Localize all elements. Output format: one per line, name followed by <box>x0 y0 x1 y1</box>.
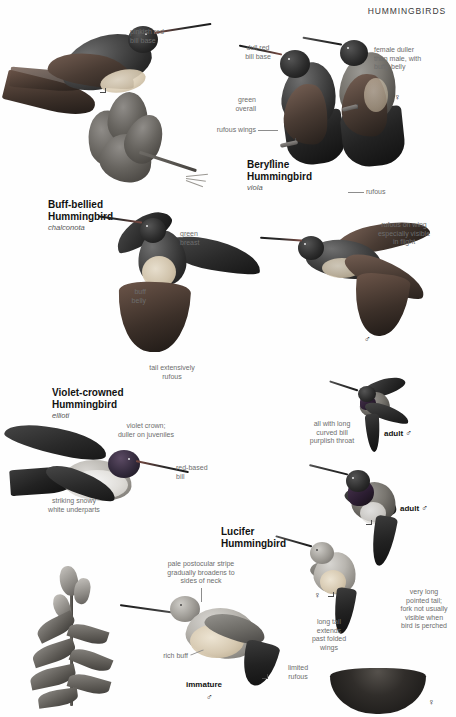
tail-fan-female <box>330 668 426 714</box>
eye <box>316 549 318 551</box>
symbol-female-tailfan: ♀ <box>428 697 435 707</box>
annotation-tail-extensively-rufous: tail extensively rufous <box>128 364 216 381</box>
bill <box>260 237 302 242</box>
bill-curved <box>309 464 348 475</box>
species-name-berylline: Berylline Hummingbird <box>247 159 312 182</box>
annotation-buff-belly: buff belly <box>112 288 146 305</box>
female-symbol: ♀ <box>394 92 401 102</box>
symbol-female-berylline: ♀ <box>394 92 401 102</box>
eye <box>146 225 148 227</box>
flower-stamen <box>186 174 208 177</box>
annotation-rich-buff: rich buff <box>148 652 188 661</box>
symbol-female-lucifer-perched: ♀ <box>314 590 321 600</box>
leader-line-rufous <box>348 192 364 193</box>
age-label-immature: immature <box>186 680 222 689</box>
male-symbol: ♂ <box>206 692 213 702</box>
head <box>358 386 376 402</box>
age-label-text: immature <box>186 680 222 689</box>
male-symbol: ♂ <box>405 428 412 438</box>
female-symbol: ♀ <box>428 697 435 707</box>
foot <box>366 520 372 525</box>
annotation-rufous-wings: rufous wings <box>200 126 256 135</box>
belly <box>364 78 388 112</box>
eye <box>288 58 290 60</box>
head <box>280 50 310 78</box>
annotation-pinkish-red-bill-base: pinkish red bill base <box>130 28 194 45</box>
species-subspecies-buff-bellied: chalconota <box>48 223 85 232</box>
age-label-text: adult <box>400 504 419 513</box>
flower-hibiscus <box>82 84 192 194</box>
annotation-limited-rufous: limited rufous <box>276 664 320 681</box>
annotation-green-overall: green overall <box>212 96 256 113</box>
bill-curved <box>120 604 176 613</box>
eye <box>304 243 306 245</box>
annotation-striking-snowy: striking snowy white underparts <box>28 497 120 514</box>
symbol-male-buff-bellied-flying: ♂ <box>364 334 371 344</box>
age-label-adult-male-lower: adult ♂ <box>400 503 428 513</box>
head-violet-crown <box>108 450 140 478</box>
head <box>310 542 334 564</box>
head <box>140 218 166 243</box>
age-label-adult-male-upper: adult ♂ <box>384 428 412 438</box>
eye <box>128 458 130 460</box>
annotation-red-based-bill: red-based bill <box>176 464 224 481</box>
plant-bottom-left <box>28 560 118 710</box>
tail <box>351 271 411 338</box>
symbol-male-immature: ♂ <box>206 692 213 702</box>
head <box>340 40 368 66</box>
annotation-very-long-pointed-tail: very long pointed tail; fork not usually… <box>394 588 454 631</box>
annotation-dull-red-bill-base: dull red bill base <box>232 44 284 61</box>
foot <box>262 674 268 679</box>
annotation-violet-crown: violet crown; duller on juveniles <box>103 422 189 439</box>
bird-lucifer-adult-male-flying <box>330 378 430 458</box>
age-label-text: adult <box>384 429 403 438</box>
annotation-female-duller: female duller than male, with buffy bell… <box>374 46 448 72</box>
annotation-pale-postocular: pale postocular stripe gradually broaden… <box>140 560 262 586</box>
field-guide-page: HUMMINGBIRDS pinkish red bill base <box>0 0 456 717</box>
species-subspecies-berylline: viola <box>247 183 263 192</box>
head <box>346 470 370 492</box>
bird-berylline-perched-female <box>318 20 438 180</box>
annotation-green-breast: green breast <box>180 230 224 247</box>
wing-upper <box>2 416 109 466</box>
page-header-title: HUMMINGBIRDS <box>368 6 446 16</box>
eye <box>347 47 349 49</box>
female-symbol: ♀ <box>314 590 321 600</box>
eye <box>352 477 354 479</box>
male-symbol: ♂ <box>364 334 371 344</box>
leader-line-rufous-wings <box>258 130 278 131</box>
foot <box>328 592 334 597</box>
annotation-rufous-on-wing: rufous on wing especially visible in fli… <box>362 221 446 247</box>
annotation-rufous: rufous <box>366 188 406 197</box>
annotation-long-tail-extends: long tail extends past folded wings <box>300 618 358 652</box>
annotation-all-with-long-curved-bill: all with long curved bill purplish throa… <box>296 420 368 446</box>
bill-curved <box>329 381 358 392</box>
species-name-violet-crowned: Violet-crowned Hummingbird <box>52 387 124 410</box>
male-symbol: ♂ <box>421 503 428 513</box>
eye <box>180 604 182 606</box>
